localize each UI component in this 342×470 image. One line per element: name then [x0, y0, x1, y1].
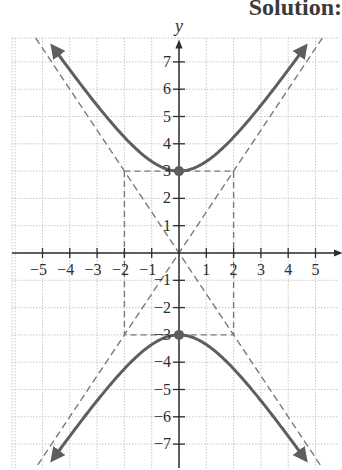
y-tick-label: 5: [163, 108, 171, 125]
x-tick-label: −3: [85, 261, 102, 278]
y-tick-label: −1: [154, 271, 171, 288]
y-tick-label: −3: [154, 326, 171, 343]
x-tick-label: 2: [230, 261, 238, 278]
y-tick-label: 2: [163, 189, 171, 206]
y-tick-label: 6: [163, 80, 171, 97]
vertex-point: [174, 330, 184, 340]
y-tick-label: 7: [163, 53, 171, 70]
x-tick-label: 3: [257, 261, 265, 278]
vertex-point: [174, 166, 184, 176]
y-tick-label: 1: [163, 217, 171, 234]
y-tick-label: −6: [154, 408, 171, 425]
x-tick-label: −2: [112, 261, 129, 278]
tick-labels: −5−4−3−2−112345−7−6−5−4−3−2−11234567y: [30, 16, 320, 452]
y-tick-label: −2: [154, 299, 171, 316]
y-tick-label: 4: [163, 135, 171, 152]
y-axis-label: y: [173, 16, 183, 36]
y-tick-label: −5: [154, 381, 171, 398]
x-tick-label: 4: [284, 261, 292, 278]
y-tick-label: −4: [154, 353, 171, 370]
x-tick-label: −4: [57, 261, 74, 278]
x-tick-label: 1: [202, 261, 210, 278]
y-tick-label: 3: [163, 162, 171, 179]
axes: [12, 44, 338, 468]
x-tick-label: 5: [312, 261, 320, 278]
x-tick-label: −5: [30, 261, 47, 278]
hyperbola-graph: −5−4−3−2−112345−7−6−5−4−3−2−11234567y: [0, 0, 342, 470]
y-tick-label: −7: [154, 435, 171, 452]
